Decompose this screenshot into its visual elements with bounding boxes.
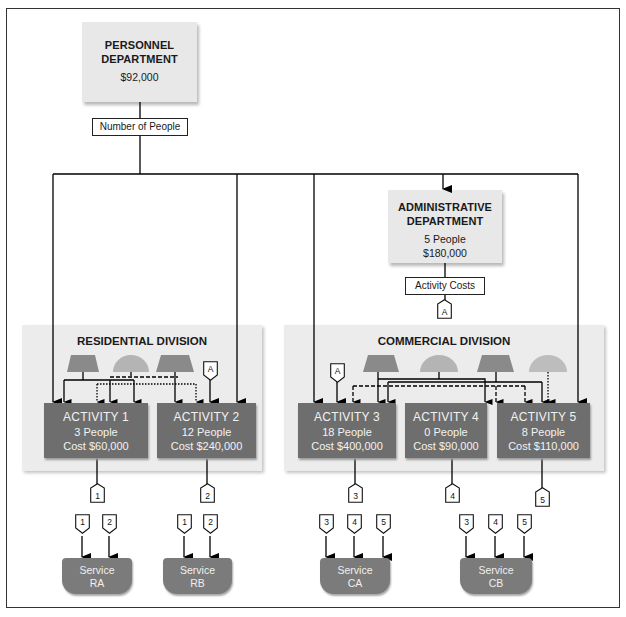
activity-people: 18 People	[298, 425, 396, 439]
service-ca-input-tag: 5	[376, 514, 391, 534]
service-cb-input-tag: 3	[459, 514, 474, 534]
activity-1-output-tag: 1	[90, 483, 105, 503]
admin-people: 5 People	[388, 232, 502, 246]
service-label-line1: Service	[62, 564, 132, 577]
service-label-line2: CA	[320, 577, 390, 590]
activity-4-output-tag: 4	[445, 483, 460, 503]
service-label-line1: Service	[460, 564, 532, 577]
tag-label: A	[330, 366, 345, 376]
activity-people: 3 People	[44, 425, 148, 439]
service-ra-box: Service RA	[62, 558, 132, 594]
service-ca-input-tag: 3	[319, 514, 334, 534]
tag-label: A	[437, 307, 452, 317]
service-label-line2: CB	[460, 577, 532, 590]
service-ra-input-tag: 1	[75, 514, 90, 534]
administrative-department-box: ADMINISTRATIVE DEPARTMENT 5 People $180,…	[388, 190, 502, 263]
admin-cost: $180,000	[388, 246, 502, 260]
commercial-division-title: COMMERCIAL DIVISION	[284, 335, 604, 347]
service-rb-input-tag: 1	[177, 514, 192, 534]
service-cb-input-tag: 4	[488, 514, 503, 534]
activity-2-output-tag: 2	[200, 483, 215, 503]
admin-tag-a: A	[437, 299, 452, 319]
service-label-line2: RA	[62, 577, 132, 590]
tag-label: 1	[177, 517, 192, 527]
tag-label: 1	[90, 491, 105, 501]
activity-2-box: ACTIVITY 2 12 People Cost $240,000	[157, 403, 256, 458]
tag-label: 4	[445, 491, 460, 501]
service-rb-input-tag: 2	[203, 514, 218, 534]
service-label-line2: RB	[163, 577, 232, 590]
number-of-people-label: Number of People	[92, 118, 188, 136]
tag-label: A	[203, 364, 218, 374]
personnel-title-line2: DEPARTMENT	[82, 52, 197, 66]
tag-label: 3	[319, 517, 334, 527]
service-label-line1: Service	[320, 564, 390, 577]
tag-label: 1	[75, 517, 90, 527]
activity-costs-label: Activity Costs	[405, 277, 485, 295]
personnel-department-box: PERSONNEL DEPARTMENT $92,000	[82, 22, 197, 102]
tag-label: 2	[203, 517, 218, 527]
service-cb-input-tag: 5	[517, 514, 532, 534]
tag-label: 5	[517, 517, 532, 527]
service-label-line1: Service	[163, 564, 232, 577]
activity-name: ACTIVITY 3	[298, 410, 396, 425]
activity-name: ACTIVITY 2	[157, 410, 256, 425]
activity-3-box: ACTIVITY 3 18 People Cost $400,000	[298, 403, 396, 458]
activity-name: ACTIVITY 5	[497, 410, 590, 425]
service-ca-box: Service CA	[320, 558, 390, 594]
activity-5-output-tag: 5	[535, 487, 550, 507]
tag-label: 2	[200, 491, 215, 501]
activity-cost: Cost $400,000	[298, 439, 396, 453]
tag-label: 4	[488, 517, 503, 527]
admin-title-line2: DEPARTMENT	[388, 214, 502, 228]
activity-people: 12 People	[157, 425, 256, 439]
activity-cost: Cost $90,000	[405, 439, 487, 453]
service-cb-box: Service CB	[460, 558, 532, 594]
activity-5-box: ACTIVITY 5 8 People Cost $110,000	[497, 403, 590, 458]
tag-label: 2	[102, 517, 117, 527]
activity-1-box: ACTIVITY 1 3 People Cost $60,000	[44, 403, 148, 458]
tag-label: 5	[535, 495, 550, 505]
activity-cost: Cost $110,000	[497, 439, 590, 453]
tag-label: 3	[348, 491, 363, 501]
tag-label: 3	[459, 517, 474, 527]
admin-title-line1: ADMINISTRATIVE	[388, 200, 502, 214]
residential-division-title: RESIDENTIAL DIVISION	[22, 335, 262, 347]
activity-people: 0 People	[405, 425, 487, 439]
tag-label: 5	[376, 517, 391, 527]
activity-people: 8 People	[497, 425, 590, 439]
tag-label: 4	[347, 517, 362, 527]
activity-3-output-tag: 3	[348, 483, 363, 503]
residential-tag-a: A	[203, 361, 218, 381]
service-rb-box: Service RB	[163, 558, 232, 594]
commercial-tag-a: A	[330, 363, 345, 383]
activity-cost: Cost $60,000	[44, 439, 148, 453]
activity-cost: Cost $240,000	[157, 439, 256, 453]
service-ra-input-tag: 2	[102, 514, 117, 534]
activity-name: ACTIVITY 1	[44, 410, 148, 425]
activity-4-box: ACTIVITY 4 0 People Cost $90,000	[405, 403, 487, 458]
service-ca-input-tag: 4	[347, 514, 362, 534]
personnel-title-line1: PERSONNEL	[82, 38, 197, 52]
personnel-cost: $92,000	[82, 70, 197, 84]
activity-name: ACTIVITY 4	[405, 410, 487, 425]
